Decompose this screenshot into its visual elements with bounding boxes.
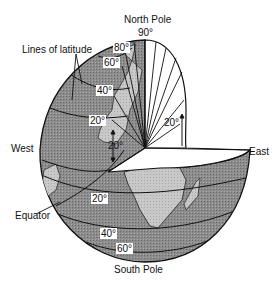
east-label: East xyxy=(249,146,269,157)
west-label: West xyxy=(11,143,34,154)
lines-of-latitude-label: Lines of latitude xyxy=(22,44,92,55)
latitude-20-north-label: 20° xyxy=(89,115,106,126)
latitude-90-label: 90° xyxy=(138,27,153,38)
angle-20-inner-left-label: 20° xyxy=(108,140,123,151)
latitude-60-south-label: 60° xyxy=(116,243,133,254)
latitude-60-label: 60° xyxy=(103,57,120,68)
equator-label: Equator xyxy=(15,210,50,221)
globe-diagram xyxy=(0,0,279,283)
latitude-40-label: 40° xyxy=(96,85,113,96)
latitude-80-label: 80° xyxy=(113,42,130,53)
north-pole-label: North Pole xyxy=(124,14,171,25)
latitude-20-south-label: 20° xyxy=(91,193,108,204)
south-pole-label: South Pole xyxy=(114,264,163,275)
latitude-40-south-label: 40° xyxy=(100,228,117,239)
angle-20-inner-right-label: 20° xyxy=(164,117,179,128)
